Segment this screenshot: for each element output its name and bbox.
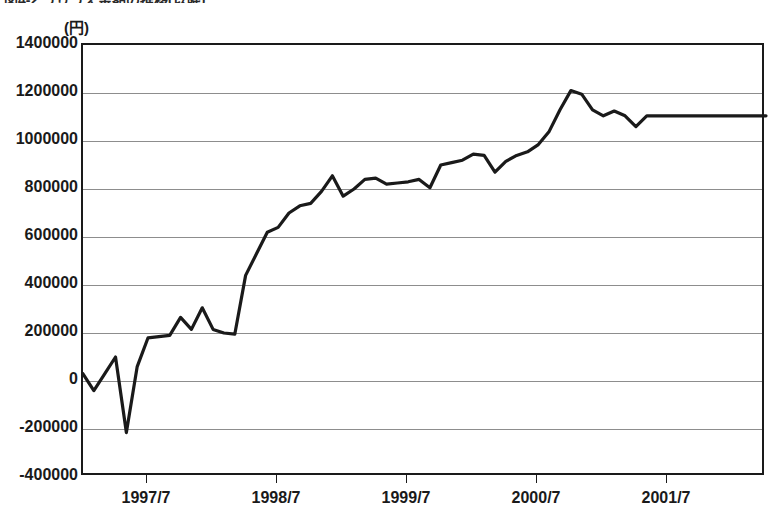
y-tick-label: -200000 bbox=[0, 419, 78, 435]
data-series-line bbox=[83, 45, 766, 477]
x-tick-mark bbox=[146, 475, 147, 483]
x-tick-label: 1998/7 bbox=[252, 489, 301, 507]
y-axis: 1400000120000010000008000006000004000002… bbox=[0, 43, 78, 475]
x-tick-label: 1999/7 bbox=[382, 489, 431, 507]
y-tick-label: -400000 bbox=[0, 467, 78, 483]
y-tick-label: 1000000 bbox=[0, 131, 78, 147]
x-tick-mark bbox=[406, 475, 407, 483]
y-tick-label: 200000 bbox=[0, 323, 78, 339]
y-tick-label: 400000 bbox=[0, 275, 78, 291]
y-tick-label: 1200000 bbox=[0, 83, 78, 99]
x-tick-mark bbox=[536, 475, 537, 483]
y-tick-label: 600000 bbox=[0, 227, 78, 243]
plot-area bbox=[81, 43, 764, 475]
x-tick-label: 2001/7 bbox=[642, 489, 691, 507]
y-tick-label: 800000 bbox=[0, 179, 78, 195]
x-axis: 1997/71998/71999/72000/72001/7 bbox=[81, 475, 764, 515]
x-tick-mark bbox=[276, 475, 277, 483]
x-tick-label: 1997/7 bbox=[122, 489, 171, 507]
figure-caption: 図4-2 うりうえ金額の推移(以降) bbox=[4, 0, 764, 3]
x-tick-label: 2000/7 bbox=[512, 489, 561, 507]
y-tick-label: 1400000 bbox=[0, 35, 78, 51]
x-tick-mark bbox=[666, 475, 667, 483]
y-tick-label: 0 bbox=[0, 371, 78, 387]
